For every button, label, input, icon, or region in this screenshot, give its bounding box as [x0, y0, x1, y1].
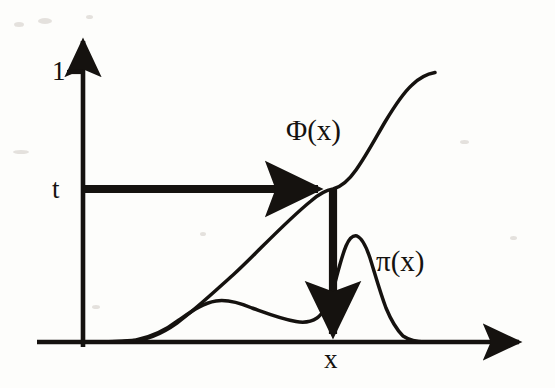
plot-graphic	[0, 0, 555, 388]
x-axis-point-label: x	[324, 346, 338, 373]
y-axis-level-label-t: t	[52, 176, 60, 203]
y-axis-tick-label-one: 1	[52, 58, 66, 85]
y-axis	[67, 41, 83, 347]
density-curve-label: π(x)	[376, 247, 424, 276]
figure-canvas: 1 t x Φ(x) π(x)	[0, 0, 555, 388]
cdf-curve-label: Φ(x)	[286, 116, 341, 145]
